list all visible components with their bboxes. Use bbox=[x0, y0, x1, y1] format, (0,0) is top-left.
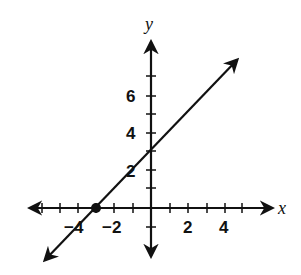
x-tick-label-neg4: −4 bbox=[64, 218, 84, 237]
y-tick-label-4: 4 bbox=[126, 124, 136, 143]
x-tick-label-neg2: −2 bbox=[102, 218, 121, 237]
coordinate-plane: −4 −2 2 4 6 4 2 x y bbox=[0, 0, 301, 275]
x-tick-label-2: 2 bbox=[183, 218, 192, 237]
x-axis-label: x bbox=[277, 198, 286, 218]
y-tick-label-6: 6 bbox=[126, 87, 135, 106]
y-tick-label-2: 2 bbox=[126, 162, 135, 181]
x-tick-label-4: 4 bbox=[219, 218, 229, 237]
x-intercept-point bbox=[91, 203, 101, 213]
y-axis-label: y bbox=[143, 14, 153, 34]
